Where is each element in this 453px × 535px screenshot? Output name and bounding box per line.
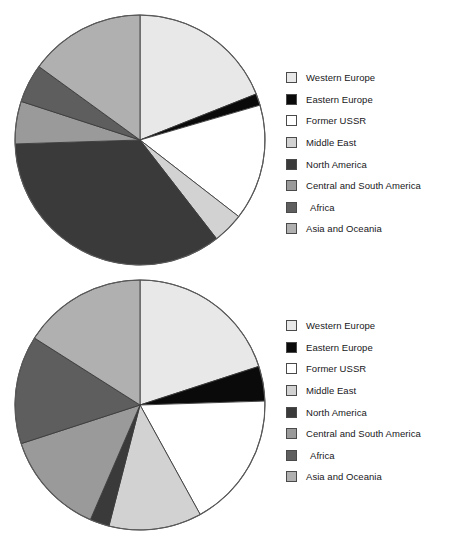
legend-item[interactable]: Asia and Oceania [286,218,421,240]
legend-item-label: North America [306,407,367,418]
page-header-caption [0,0,453,9]
legend-swatch-icon [286,385,297,396]
legend-item[interactable]: Former USSR [286,358,421,380]
legend-item[interactable]: Western Europe [286,315,421,337]
legend-swatch-icon [286,363,297,374]
legend-swatch-icon [286,223,297,234]
pie-figure-top: Western EuropeEastern EuropeFormer USSRM… [0,12,453,270]
legend-item-label: Asia and Oceania [306,223,382,234]
legend-item[interactable]: North America [286,401,421,423]
legend-item-label: Eastern Europe [306,94,373,105]
pie-top-svg [12,12,268,268]
legend-item-label: Former USSR [306,363,366,374]
legend-item-label: Asia and Oceania [306,471,382,482]
legend-item-label: Western Europe [306,72,375,83]
legend-swatch-icon [286,72,297,83]
legend-item[interactable]: Africa [286,445,421,467]
legend-item[interactable]: Western Europe [286,67,421,89]
legend-top: Western EuropeEastern EuropeFormer USSRM… [286,67,421,240]
legend-item[interactable]: Eastern Europe [286,337,421,359]
legend-swatch-icon [286,202,297,213]
legend-item[interactable]: Africa [286,197,421,219]
legend-swatch-icon [286,115,297,126]
legend-swatch-icon [286,450,297,461]
pie-chart-bottom [12,277,268,533]
figure-page: Western EuropeEastern EuropeFormer USSRM… [0,0,453,535]
legend-item[interactable]: Eastern Europe [286,89,421,111]
legend-item[interactable]: Central and South America [286,175,421,197]
legend-swatch-icon [286,471,297,482]
legend-item[interactable]: Asia and Oceania [286,466,421,488]
legend-swatch-icon [286,137,297,148]
legend-item[interactable]: Middle East [286,380,421,402]
legend-item-label: Western Europe [306,320,375,331]
legend-swatch-icon [286,407,297,418]
legend-item-label: North America [306,159,367,170]
legend-swatch-icon [286,428,297,439]
legend-item[interactable]: Central and South America [286,423,421,445]
legend-swatch-icon [286,342,297,353]
legend-item[interactable]: Middle East [286,132,421,154]
legend-item-label: Central and South America [306,180,421,191]
legend-swatch-icon [286,320,297,331]
legend-item-label: Africa [306,202,335,213]
legend-item[interactable]: Former USSR [286,110,421,132]
legend-item-label: Middle East [306,385,356,396]
pie-figure-bottom: Western EuropeEastern EuropeFormer USSRM… [0,277,453,533]
legend-item-label: Former USSR [306,115,366,126]
legend-item-label: Africa [306,450,335,461]
legend-swatch-icon [286,180,297,191]
pie-chart-top [12,12,268,268]
legend-item[interactable]: North America [286,153,421,175]
legend-bottom: Western EuropeEastern EuropeFormer USSRM… [286,315,421,488]
legend-item-label: Middle East [306,137,356,148]
pie-bottom-svg [12,277,268,533]
legend-swatch-icon [286,94,297,105]
legend-swatch-icon [286,159,297,170]
legend-item-label: Eastern Europe [306,342,373,353]
legend-item-label: Central and South America [306,428,421,439]
